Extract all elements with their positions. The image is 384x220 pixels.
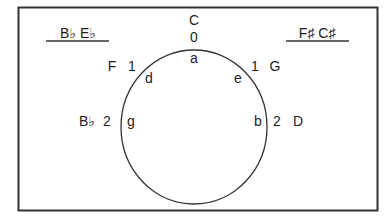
key-circle [121, 50, 267, 204]
flats-header: B♭ E♭ [60, 26, 96, 40]
accidental-count-b-flat: 2 [103, 114, 111, 128]
minor-label-b: b [254, 114, 262, 128]
key-label-c: C [189, 13, 199, 27]
accidental-count-f: 1 [128, 59, 136, 73]
minor-label-g: g [127, 114, 135, 128]
key-label-d: D [293, 114, 303, 128]
key-label-g: G [270, 59, 281, 73]
accidental-count-g: 1 [251, 59, 259, 73]
key-label-f: F [108, 59, 117, 73]
minor-label-a: a [190, 51, 198, 65]
accidental-count-d: 2 [273, 114, 281, 128]
minor-label-d: d [145, 71, 153, 85]
minor-label-e: e [234, 71, 242, 85]
sharps-header: F♯ C♯ [299, 26, 336, 40]
accidental-count-c: 0 [190, 30, 198, 44]
key-label-b-flat: B♭ [79, 114, 95, 128]
